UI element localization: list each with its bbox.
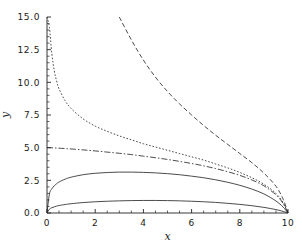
axis-labels-group: 02468100.02.55.07.510.012.515.0xy [0, 12, 294, 243]
y-tick-label: 5.0 [24, 143, 40, 153]
y-tick-label: 10.0 [18, 78, 40, 88]
y-tick-label: 15.0 [18, 12, 40, 22]
y-tick-label: 7.5 [24, 110, 40, 120]
curves-group [47, 17, 288, 213]
curve-curve-2-solid-high [47, 172, 288, 213]
x-tick-label: 4 [140, 218, 146, 228]
curve-curve-3-dashdot [47, 148, 288, 213]
x-tick-label: 6 [188, 218, 194, 228]
x-tick-label: 8 [237, 218, 243, 228]
y-tick-label: 2.5 [24, 176, 40, 186]
x-tick-label: 10 [282, 218, 295, 228]
chart-figure: 02468100.02.55.07.510.012.515.0xy [0, 0, 302, 247]
y-tick-label: 12.5 [18, 45, 40, 55]
y-tick-label: 0.0 [24, 208, 40, 218]
x-tick-label: 0 [44, 218, 50, 228]
x-tick-label: 2 [92, 218, 98, 228]
curve-curve-4-dotted [47, 17, 288, 213]
y-axis-title: y [0, 111, 12, 119]
x-axis-title: x [164, 230, 171, 243]
line-chart-plot: 02468100.02.55.07.510.012.515.0xy [0, 0, 302, 247]
axes-group [47, 17, 288, 213]
